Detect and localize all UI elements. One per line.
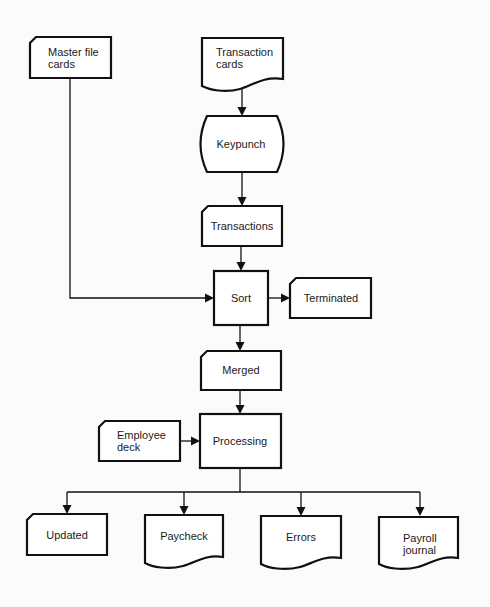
edge-master-to-sort xyxy=(70,78,206,298)
node-label: Processing xyxy=(213,435,267,447)
arrow-head-icon xyxy=(191,437,200,446)
arrow-head-icon xyxy=(180,506,189,515)
arrow-head-icon xyxy=(297,507,306,516)
node-payroll-journal[interactable]: Payroll journal xyxy=(379,517,458,569)
arrow-head-icon xyxy=(205,294,214,303)
node-label: Keypunch xyxy=(217,138,266,150)
arrow-head-icon xyxy=(238,197,247,206)
node-label-line2: journal xyxy=(402,544,436,556)
node-label-line2: cards xyxy=(216,58,243,70)
arrow-head-icon xyxy=(237,262,246,271)
node-transactions[interactable]: Transactions xyxy=(202,206,282,246)
node-label-line1: Master file xyxy=(48,46,99,58)
node-label: Merged xyxy=(222,364,259,376)
node-paycheck[interactable]: Paycheck xyxy=(145,515,223,568)
node-label-line1: Transaction xyxy=(216,46,273,58)
arrow-head-icon xyxy=(236,405,245,414)
node-merged[interactable]: Merged xyxy=(201,351,281,390)
node-master-file-cards[interactable]: Master file cards xyxy=(30,37,111,78)
node-terminated[interactable]: Terminated xyxy=(290,278,371,318)
node-errors[interactable]: Errors xyxy=(261,516,341,569)
payroll-flowchart: Master file cards Transaction cards Keyp… xyxy=(0,0,490,607)
arrow-head-icon xyxy=(238,107,247,116)
node-label: Errors xyxy=(286,531,316,543)
node-label-line1: Payroll xyxy=(403,532,437,544)
node-updated[interactable]: Updated xyxy=(27,514,107,555)
arrow-head-icon xyxy=(281,294,290,303)
node-transaction-cards[interactable]: Transaction cards xyxy=(202,38,283,91)
arrow-head-icon xyxy=(63,505,72,514)
node-label-line2: cards xyxy=(48,58,75,70)
node-label-line1: Employee xyxy=(117,429,166,441)
node-label: Paycheck xyxy=(160,530,208,542)
node-processing[interactable]: Processing xyxy=(200,414,281,468)
node-label: Terminated xyxy=(304,292,358,304)
node-label: Updated xyxy=(46,529,88,541)
arrow-head-icon xyxy=(416,507,425,516)
node-employee-deck[interactable]: Employee deck xyxy=(99,421,180,461)
node-label: Sort xyxy=(231,292,251,304)
node-keypunch[interactable]: Keypunch xyxy=(201,116,284,172)
node-label: Transactions xyxy=(211,220,274,232)
arrow-head-icon xyxy=(236,342,245,351)
node-label-line2: deck xyxy=(117,441,141,453)
node-sort[interactable]: Sort xyxy=(214,271,268,325)
